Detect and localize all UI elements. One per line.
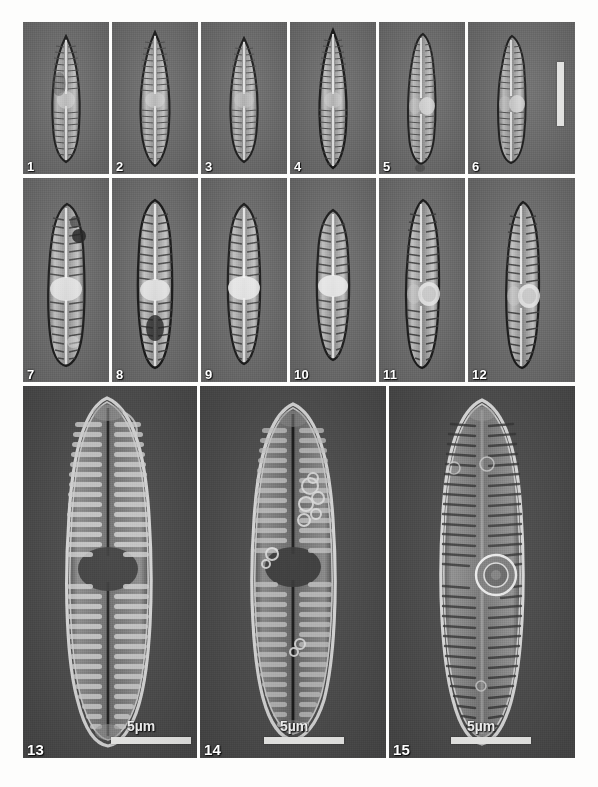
panel-8[interactable]: 8 (112, 178, 198, 382)
panel-number: 5 (383, 160, 390, 173)
diatom-valve-12 (468, 178, 575, 382)
panel-number: 13 (27, 742, 44, 757)
diatom-valve-15 (389, 386, 575, 758)
panel-14[interactable]: 5µm 14 (200, 386, 386, 758)
central-area (140, 279, 170, 301)
micrograph-plate: 1 (0, 0, 598, 787)
scale-bar-14 (264, 737, 344, 744)
panel-13[interactable]: 5µm 13 (23, 386, 197, 758)
diatom-valve-9 (201, 178, 287, 382)
central-area (228, 276, 260, 300)
stigma (419, 97, 435, 115)
panel-9[interactable]: 9 (201, 178, 287, 382)
panel-15[interactable]: 5µm 15 (389, 386, 575, 758)
panel-5[interactable]: 5 (379, 22, 465, 174)
scale-bar-13 (111, 737, 191, 744)
diatom-valve-3 (201, 22, 287, 174)
diatom-valve-5 (379, 22, 465, 174)
diatom-valve-11 (379, 178, 465, 382)
diatom-valve-13 (23, 386, 197, 758)
diatom-valve-7 (23, 178, 109, 382)
panel-6[interactable]: 6 (468, 22, 575, 174)
panel-number: 4 (294, 160, 301, 173)
panel-number: 14 (204, 742, 221, 757)
panel-11[interactable]: 11 (379, 178, 465, 382)
panel-1[interactable]: 1 (23, 22, 109, 174)
stigma (509, 95, 525, 113)
panel-number: 2 (116, 160, 123, 173)
panel-number: 7 (27, 368, 34, 381)
panel-number: 3 (205, 160, 212, 173)
central-area (318, 275, 348, 297)
panel-12[interactable]: 12 (468, 178, 575, 382)
panel-number: 6 (472, 160, 479, 173)
panel-7[interactable]: 7 (23, 178, 109, 382)
diatom-valve-10 (290, 178, 376, 382)
diatom-valve-1 (23, 22, 109, 174)
panel-number: 1 (27, 160, 34, 173)
diatom-valve-8 (112, 178, 198, 382)
panel-number: 10 (294, 368, 309, 381)
panel-2[interactable]: 2 (112, 22, 198, 174)
scale-bar-label-13: 5µm (127, 719, 155, 733)
panel-number: 11 (383, 368, 397, 381)
diatom-valve-2 (112, 22, 198, 174)
scale-bar-label-15: 5µm (467, 719, 495, 733)
panel-3[interactable]: 3 (201, 22, 287, 174)
central-area (50, 277, 82, 301)
diatom-valve-14 (200, 386, 386, 758)
diatom-valve-4 (290, 22, 376, 174)
scale-bar-lm (557, 62, 564, 126)
scale-bar-label-14: 5µm (280, 719, 308, 733)
scale-bar-15 (451, 737, 531, 744)
panel-number: 15 (393, 742, 410, 757)
panel-10[interactable]: 10 (290, 178, 376, 382)
panel-number: 8 (116, 368, 123, 381)
panel-number: 9 (205, 368, 212, 381)
panel-number: 12 (472, 368, 487, 381)
panel-4[interactable]: 4 (290, 22, 376, 174)
